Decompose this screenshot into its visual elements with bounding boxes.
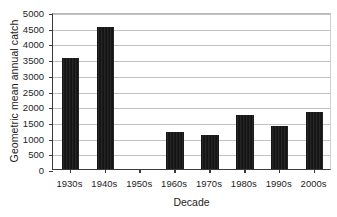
x-axis-tick-label: 1990s (266, 178, 292, 189)
x-axis-tick (139, 169, 140, 173)
gridline (53, 140, 330, 141)
gridline (53, 30, 330, 31)
gridline (53, 93, 330, 94)
x-axis-tick-label: 1930s (56, 178, 82, 189)
x-axis-tick (209, 169, 210, 173)
x-axis-tick-label: 2000s (301, 178, 327, 189)
y-axis-tick-label: 2000 (0, 102, 44, 113)
bar (201, 135, 218, 169)
y-axis-tick (49, 14, 53, 15)
x-axis-tick (174, 169, 175, 173)
y-axis-tick-label: 1500 (0, 117, 44, 128)
y-axis-tick-label: 1000 (0, 133, 44, 144)
bar (97, 27, 114, 169)
gridline (53, 108, 330, 109)
x-axis-tick (244, 169, 245, 173)
x-axis-tick-label: 1960s (161, 178, 187, 189)
gridline (53, 124, 330, 125)
bar (306, 112, 323, 169)
gridline (53, 14, 330, 15)
y-axis-tick-label: 3000 (0, 70, 44, 81)
y-axis-tick (49, 155, 53, 156)
y-axis-tick (49, 171, 53, 172)
bar (166, 132, 183, 169)
x-axis-title: Decade (52, 196, 331, 208)
x-axis-tick (279, 169, 280, 173)
plot-area (52, 13, 331, 170)
x-axis-tick (70, 169, 71, 173)
gridline (53, 155, 330, 156)
bar (271, 126, 288, 169)
y-axis-tick (49, 30, 53, 31)
y-axis-tick (49, 140, 53, 141)
y-axis-tick-label: 0 (0, 165, 44, 176)
x-axis-tick-label: 1970s (196, 178, 222, 189)
x-axis-tick (105, 169, 106, 173)
y-axis-tick-label: 5000 (0, 8, 44, 19)
y-axis-tick (49, 77, 53, 78)
y-axis-tick (49, 61, 53, 62)
y-axis-tick (49, 93, 53, 94)
x-axis-tick (314, 169, 315, 173)
bar (62, 58, 79, 169)
y-axis-tick-label: 2500 (0, 86, 44, 97)
y-axis-tick-label: 500 (0, 149, 44, 160)
x-axis-tick-label: 1980s (231, 178, 257, 189)
bar (236, 115, 253, 169)
y-axis-tick (49, 45, 53, 46)
x-axis-tick-label: 1940s (91, 178, 117, 189)
gridline (53, 77, 330, 78)
gridline (53, 45, 330, 46)
gridline (53, 61, 330, 62)
y-axis-tick (49, 108, 53, 109)
y-axis-tick-label: 3500 (0, 55, 44, 66)
y-axis-tick-label: 4000 (0, 39, 44, 50)
y-axis-tick (49, 124, 53, 125)
x-axis-tick-label: 1950s (126, 178, 152, 189)
bar-chart: Geometric mean annual catch 050010001500… (0, 0, 337, 217)
y-axis-tick-label: 4500 (0, 23, 44, 34)
